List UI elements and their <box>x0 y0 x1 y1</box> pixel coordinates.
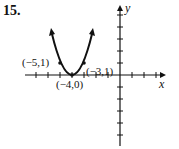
y-axis-arrow-icon <box>117 5 123 11</box>
point-label: (−4,0) <box>56 78 83 90</box>
y-axis-label: y <box>125 1 130 16</box>
point-neg5-1 <box>58 61 62 65</box>
point-neg4-0 <box>70 73 74 77</box>
curve-arrow-left-icon <box>49 28 55 36</box>
point-label: (−3,1) <box>86 65 113 77</box>
curve-arrow-right-icon <box>89 28 95 36</box>
point-label: (−5,1) <box>22 56 49 68</box>
x-axis-label: x <box>159 77 164 92</box>
